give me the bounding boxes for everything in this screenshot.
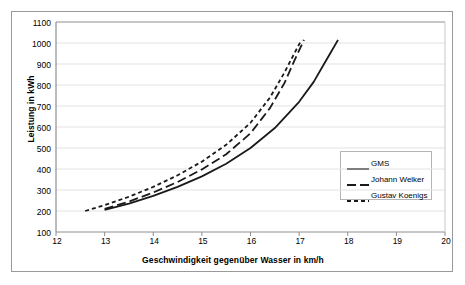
series-line <box>105 40 338 210</box>
series-line <box>85 40 301 211</box>
chart-plot <box>0 0 465 285</box>
series-line <box>105 40 304 209</box>
